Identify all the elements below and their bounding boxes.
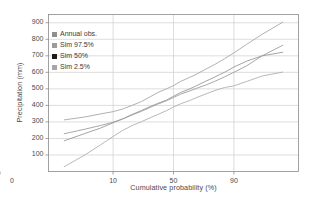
- legend-item-label: Sim 97.5%: [60, 41, 94, 49]
- legend-item-label: Sim 2.5%: [60, 63, 90, 71]
- legend-item: Sim 97.5%: [52, 40, 97, 50]
- y-tick-label: 400: [22, 101, 44, 108]
- x-axis-title: Cumulative probability (%): [48, 183, 299, 192]
- precipitation-cumulative-probability-chart: 100200300400500600700800900 0105090 Prec…: [0, 0, 311, 200]
- y-tick-label: 700: [22, 51, 44, 58]
- legend-swatch-icon: [52, 54, 57, 59]
- plot-canvas: [0, 0, 311, 200]
- y-tick-label: 600: [22, 68, 44, 75]
- legend-item-label: Sim 50%: [60, 52, 88, 60]
- y-tick-label: 100: [22, 150, 44, 157]
- x-tick-label: 0: [0, 177, 24, 184]
- legend-item-label: Annual obs.: [60, 30, 97, 38]
- legend-swatch-icon: [52, 32, 57, 37]
- y-tick-label: 200: [22, 134, 44, 141]
- legend-swatch-icon: [52, 65, 57, 70]
- y-axis-title: Precipitation (mm): [15, 43, 24, 143]
- legend-swatch-icon: [52, 43, 57, 48]
- legend-item: Sim 2.5%: [52, 62, 97, 72]
- y-tick-label: 300: [22, 117, 44, 124]
- y-tick-label: 800: [22, 35, 44, 42]
- y-tick-label: 900: [22, 18, 44, 25]
- legend-item: Sim 50%: [52, 51, 97, 61]
- y-tick-label: 500: [22, 84, 44, 91]
- chart-legend: Annual obs.Sim 97.5%Sim 50%Sim 2.5%: [52, 29, 97, 73]
- legend-item: Annual obs.: [52, 29, 97, 39]
